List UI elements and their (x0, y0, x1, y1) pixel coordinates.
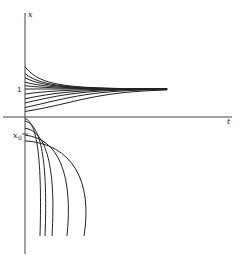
x0-label-subscript: 0 (18, 134, 22, 141)
diverging-curve (25, 135, 68, 236)
y-axis-label: x (28, 10, 33, 19)
solution-curve-diagram: x t 1 x 0 (0, 0, 245, 255)
solution-curves (25, 67, 168, 236)
diverging-curve (25, 141, 86, 236)
diverging-curve (25, 121, 46, 236)
equilibrium-label: 1 (17, 85, 22, 94)
x0-label: x 0 (13, 131, 22, 141)
t-axis-label: t (227, 117, 231, 126)
diverging-curve (25, 128, 53, 236)
